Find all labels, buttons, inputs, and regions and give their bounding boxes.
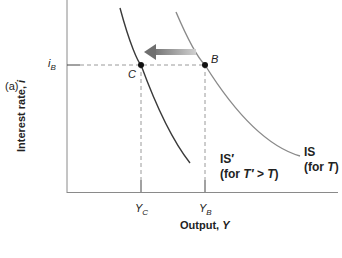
x-tick-label-YC: YC (135, 202, 148, 217)
is-condition: (for T) (304, 160, 339, 175)
is-prime-name: IS′ (220, 152, 279, 167)
is-label: IS (for T) (304, 145, 339, 175)
point-C (138, 62, 144, 68)
cond-prefix: (for (304, 160, 327, 174)
cond-suffix: ) (275, 167, 279, 181)
tick-subscript: B (206, 208, 211, 217)
tick-subscript: C (142, 208, 148, 217)
is-prime-condition: (for T′ > T) (220, 167, 279, 182)
point-B (202, 62, 208, 68)
x-tick-label-YB: YB (199, 202, 212, 217)
x-axis-label: Output, Y (180, 219, 230, 231)
cond-prefix: (for (220, 167, 243, 181)
x-axis-label-var: Y (222, 219, 229, 231)
y-tick-label-iB: iB (48, 57, 56, 72)
x-axis-label-text: Output, (180, 219, 222, 231)
tick-subscript: B (50, 63, 55, 72)
cond-var: T′ > T (243, 167, 274, 181)
is-prime-curve (120, 8, 190, 163)
point-B-label: B (211, 53, 218, 65)
cond-var: T (327, 160, 334, 174)
shift-arrow-icon (144, 44, 196, 60)
is-curve (176, 12, 300, 156)
is-name: IS (304, 145, 339, 160)
cond-suffix: ) (335, 160, 339, 174)
is-prime-label: IS′ (for T′ > T) (220, 152, 279, 182)
is-diagram (0, 0, 342, 258)
point-C-label: C (128, 68, 136, 80)
